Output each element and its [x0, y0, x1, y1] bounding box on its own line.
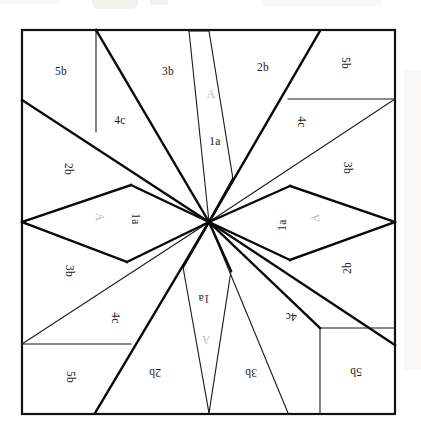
- patch-label-4c-p18: 4c: [285, 310, 296, 322]
- patch-label-4c-p05: 4c: [114, 115, 125, 127]
- patch-label-2b-p16: 2b: [342, 262, 354, 274]
- patch-label-a-p20: A: [202, 333, 211, 345]
- patch-label-a-p11: A: [93, 213, 105, 222]
- patch-label-1a-p13: 1a: [277, 219, 289, 230]
- patch-label-3b-p15: 3b: [63, 265, 75, 277]
- patch-label-5b-p24: 5b: [350, 365, 362, 377]
- patch-label-1a-p12: 1a: [129, 213, 141, 224]
- patch-label-3b-p10: 3b: [341, 162, 353, 174]
- patch-label-5b-p04: 5b: [339, 57, 351, 69]
- patch-label-4c-p17: 4c: [109, 312, 121, 323]
- patch-label-3b-p23: 3b: [245, 366, 257, 378]
- patch-label-5b-p01: 5b: [55, 66, 67, 78]
- patch-label-2b-p03: 2b: [257, 62, 269, 74]
- quilt-block-diagram-page: 5b3b2b5b4c4cA1a2b3bA1a1aA3b2b4c4c1aA5b2b…: [0, 0, 421, 436]
- patch-label-4c-p06: 4c: [295, 116, 307, 127]
- patch-label-2b-p09: 2b: [62, 163, 74, 175]
- patch-label-2b-p22: 2b: [149, 366, 161, 378]
- patch-label-5b-p21: 5b: [64, 371, 76, 383]
- patch-label-3b-p02: 3b: [162, 66, 174, 78]
- patch-label-1a-p08: 1a: [209, 136, 220, 148]
- patch-label-a-p07: A: [207, 89, 216, 101]
- patch-label-1a-p19: 1a: [198, 292, 209, 304]
- patch-label-a-p14: A: [310, 214, 322, 223]
